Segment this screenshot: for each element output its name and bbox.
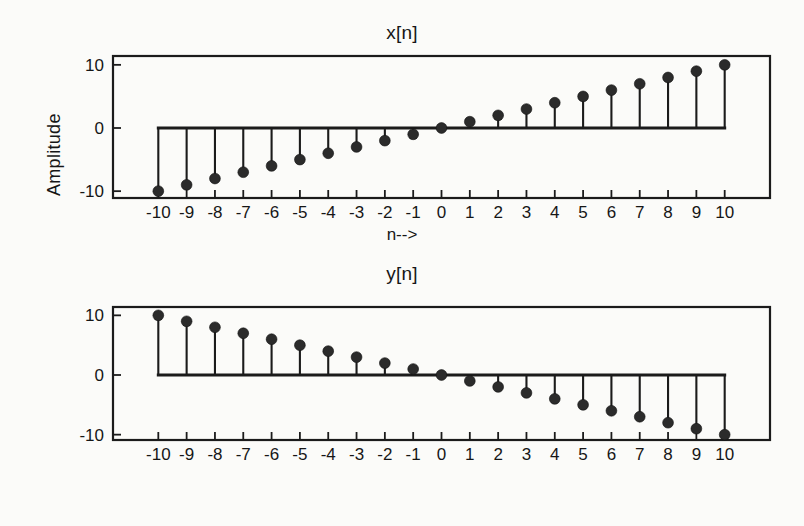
x-tick-label: -5: [292, 445, 307, 464]
x-tick-label: 2: [493, 445, 502, 464]
x-tick-label: -2: [377, 445, 392, 464]
stem-marker: [153, 310, 164, 321]
x-tick-label: 4: [550, 203, 559, 222]
x-tick-label: 7: [635, 203, 644, 222]
stem-plot-x-of-n: 100-10-10-9-8-7-6-5-4-3-2-1012345678910: [0, 0, 804, 263]
y-tick-label: 0: [95, 366, 104, 385]
x-tick-label: 8: [663, 445, 672, 464]
chart-panel-y-of-n: y[n] Amplitude 100-10-10-9-8-7-6-5-4-3-2…: [0, 263, 804, 526]
figure-page: x[n] Amplitude 100-10-10-9-8-7-6-5-4-3-2…: [0, 0, 804, 526]
x-tick-label: 9: [692, 445, 701, 464]
stem-marker: [521, 104, 532, 115]
stem-marker: [238, 167, 249, 178]
x-tick-label: -3: [349, 203, 364, 222]
x-tick-label: 0: [437, 203, 446, 222]
stem-marker: [181, 179, 192, 190]
stem-marker: [521, 387, 532, 398]
x-tick-label: 9: [692, 203, 701, 222]
stem-marker: [719, 59, 730, 70]
y-tick-label: 10: [85, 306, 104, 325]
stem-marker: [634, 411, 645, 422]
stem-marker: [238, 328, 249, 339]
chart-panel-x-of-n: x[n] Amplitude 100-10-10-9-8-7-6-5-4-3-2…: [0, 0, 804, 263]
x-tick-label: -9: [179, 445, 194, 464]
x-tick-label: 5: [578, 203, 587, 222]
stem-marker: [295, 340, 306, 351]
x-tick-label: -6: [264, 445, 279, 464]
stem-marker: [663, 417, 674, 428]
stem-marker: [691, 423, 702, 434]
stem-marker: [408, 364, 419, 375]
x-tick-label: -1: [406, 445, 421, 464]
stem-marker: [464, 116, 475, 127]
x-axis-label-x-of-n: n-->: [0, 225, 804, 245]
stem-marker: [436, 370, 447, 381]
stem-marker: [379, 135, 390, 146]
x-tick-label: 7: [635, 445, 644, 464]
stem-marker: [719, 429, 730, 440]
x-tick-label: -9: [179, 203, 194, 222]
stem-marker: [266, 160, 277, 171]
stem-marker: [408, 129, 419, 140]
stem-marker: [323, 148, 334, 159]
y-tick-label: -10: [79, 426, 104, 445]
x-tick-label: 3: [522, 203, 531, 222]
x-tick-label: -1: [406, 203, 421, 222]
x-tick-label: -8: [207, 203, 222, 222]
stem-marker: [295, 154, 306, 165]
stem-marker: [493, 110, 504, 121]
x-tick-label: -10: [146, 445, 171, 464]
stem-plot-y-of-n: 100-10-10-9-8-7-6-5-4-3-2-1012345678910: [0, 263, 804, 526]
stem-marker: [351, 142, 362, 153]
stem-marker: [493, 382, 504, 393]
x-tick-label: 6: [607, 445, 616, 464]
stem-marker: [266, 334, 277, 345]
x-tick-label: 5: [578, 445, 587, 464]
y-tick-label: -10: [79, 182, 104, 201]
stem-marker: [181, 316, 192, 327]
stem-marker: [464, 376, 475, 387]
stem-marker: [606, 405, 617, 416]
x-tick-label: -4: [321, 445, 336, 464]
stem-marker: [663, 72, 674, 83]
stem-marker: [549, 393, 560, 404]
stem-marker: [634, 78, 645, 89]
x-tick-label: 2: [493, 203, 502, 222]
stem-marker: [210, 322, 221, 333]
stem-marker: [379, 358, 390, 369]
stem-marker: [606, 85, 617, 96]
stem-marker: [549, 97, 560, 108]
x-tick-label: 1: [465, 445, 474, 464]
x-tick-label: -2: [377, 203, 392, 222]
x-tick-label: -3: [349, 445, 364, 464]
x-tick-label: 4: [550, 445, 559, 464]
x-tick-label: -6: [264, 203, 279, 222]
x-tick-label: 10: [715, 203, 734, 222]
stem-marker: [323, 346, 334, 357]
stem-marker: [436, 123, 447, 134]
x-tick-label: 10: [715, 445, 734, 464]
x-tick-label: 8: [663, 203, 672, 222]
x-tick-label: -10: [146, 203, 171, 222]
x-tick-label: -7: [236, 203, 251, 222]
x-tick-label: -7: [236, 445, 251, 464]
stem-marker: [153, 186, 164, 197]
x-tick-label: 0: [437, 445, 446, 464]
stem-marker: [351, 352, 362, 363]
stem-marker: [210, 173, 221, 184]
x-tick-label: 1: [465, 203, 474, 222]
x-tick-label: 6: [607, 203, 616, 222]
y-tick-label: 0: [95, 119, 104, 138]
stem-marker: [578, 91, 589, 102]
x-tick-label: -4: [321, 203, 336, 222]
x-tick-label: -5: [292, 203, 307, 222]
stem-marker: [691, 66, 702, 77]
x-tick-label: -8: [207, 445, 222, 464]
y-tick-label: 10: [85, 56, 104, 75]
stem-marker: [578, 399, 589, 410]
x-tick-label: 3: [522, 445, 531, 464]
